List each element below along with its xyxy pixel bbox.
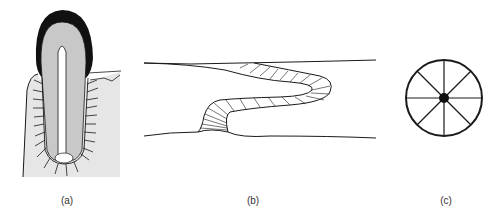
upper-surface <box>144 60 376 64</box>
panel-a-tooth-diagram <box>0 0 130 190</box>
panel-c-wheel-diagram <box>390 40 502 150</box>
wheel-hub <box>439 93 449 103</box>
panel-a-label: (a) <box>61 195 73 206</box>
panel-b-band-diagram <box>130 40 390 150</box>
lower-surface <box>144 130 376 138</box>
panel-b-label: (b) <box>247 195 259 206</box>
pulp-canal <box>58 46 66 155</box>
wheel-illustration <box>390 40 502 150</box>
s-band-illustration <box>130 40 390 150</box>
tooth-illustration <box>0 0 130 190</box>
panel-c-label: (c) <box>440 195 452 206</box>
